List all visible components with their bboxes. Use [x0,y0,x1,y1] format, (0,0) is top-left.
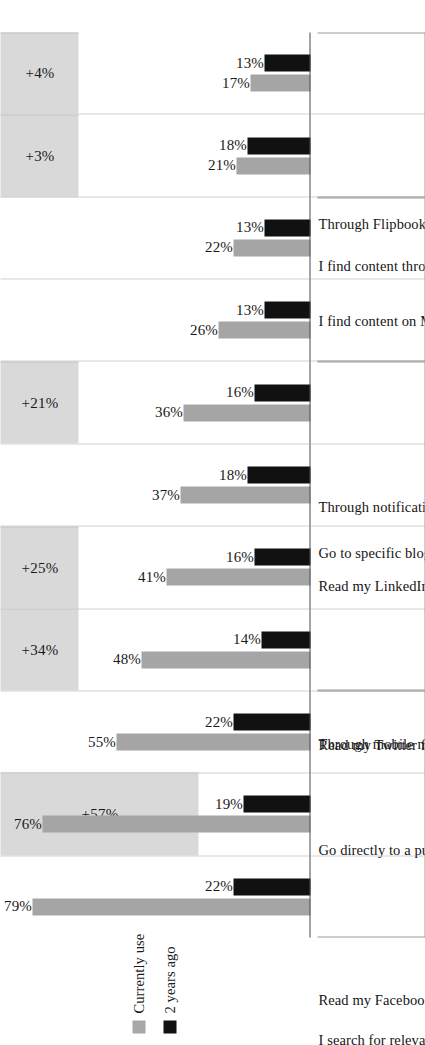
category-label-cell: I search for relevant content in search … [310,856,425,937]
legend-swatch-2-years-ago [163,1020,176,1033]
bar-value-label: 21% [207,157,235,174]
bar-group: 79%22% [0,856,310,937]
bar-value-label: 36% [155,404,183,421]
bar-group: 36%16% [0,361,310,443]
legend-item-currently-use: Currently use [130,933,147,1033]
bar-currently-use: 48% [141,651,310,668]
bar-groups: 79%22%76%19%55%22%48%14%41%16%37%18%36%1… [0,32,310,937]
bar-value-label: 76% [14,815,42,832]
legend-label-currently-use: Currently use [130,933,147,1013]
bar-value-label: 22% [204,713,232,730]
category-label-cell: Through mobile notifications [310,609,425,691]
bar-value-label: 22% [204,239,232,256]
bar-value-label: 17% [222,74,250,91]
bar-value-label: 13% [236,54,264,71]
bar-2-years-ago: 22% [233,878,311,895]
bar-currently-use: 26% [218,321,310,338]
bar-value-label: 26% [190,321,218,338]
chart-stage: Currently use 2 years ago +57%+34%+25%+2… [0,0,425,1045]
bar-group: 21%18% [0,114,310,196]
category-label: Through notifications via Slack or other… [318,498,425,515]
category-label-cell: Read my LinkedIn feed and click interest… [310,361,425,443]
bar-2-years-ago: 13% [264,54,310,71]
bar-2-years-ago: 16% [254,548,310,565]
category-label: I find content on Medium [318,313,425,330]
bar-group: 37%18% [0,444,310,526]
category-label: I search for relevant content in search … [318,1032,425,1045]
bar-value-label: 13% [236,301,264,318]
category-label: Read my Facebook feed and click interest… [318,991,425,1008]
bar-2-years-ago: 18% [247,466,310,483]
bar-value-label: 55% [88,733,116,750]
category-label-cell: Read my Twitter feed and click interesti… [310,526,425,608]
plot-area: +57%+34%+25%+21%+3%+4% 79%22%76%19%55%22… [0,32,425,937]
bar-2-years-ago: 22% [233,713,311,730]
bar-currently-use: 21% [236,157,310,174]
bar-chart-figure: Currently use 2 years ago +57%+34%+25%+2… [0,0,425,1045]
bar-2-years-ago: 16% [254,384,310,401]
category-label-strip: I search for relevant content in search … [310,32,425,937]
category-label: Go to specific blogs [318,544,425,561]
bar-value-label: 18% [218,137,246,154]
category-label: Read my LinkedIn feed and click interest… [318,578,425,595]
bar-value-label: 37% [151,486,179,503]
bar-value-label: 16% [225,384,253,401]
chart-legend: Currently use 2 years ago [130,933,178,1033]
bar-2-years-ago: 14% [261,631,310,648]
category-label: I find content through an RSS feed [318,258,425,275]
bar-value-label: 14% [232,631,260,648]
bar-value-label: 18% [218,466,246,483]
bar-value-label: 41% [137,568,165,585]
bar-currently-use: 76% [42,815,310,832]
bar-currently-use: 36% [183,404,310,421]
bar-value-label: 22% [204,878,232,895]
bar-group: 26%13% [0,279,310,361]
legend-swatch-currently-use [132,1020,145,1033]
category-label-cell: Go directly to a publication's website [310,691,425,773]
legend-item-2-years-ago: 2 years ago [161,933,178,1033]
bar-group: 17%13% [0,32,310,114]
bar-currently-use: 79% [32,898,310,915]
bar-value-label: 48% [112,651,140,668]
bar-group: 41%16% [0,526,310,608]
bar-currently-use: 37% [180,486,310,503]
category-label-cell: Through Flipbook, Feedly or another read… [310,32,425,114]
legend-label-2-years-ago: 2 years ago [161,946,178,1013]
bar-currently-use: 17% [250,74,310,91]
category-label: Read my Twitter feed and click interesti… [318,737,425,754]
bar-currently-use: 55% [116,733,310,750]
bar-2-years-ago: 18% [247,137,310,154]
category-label: Go directly to a publication's website [318,841,425,858]
bar-value-label: 13% [236,219,264,236]
bar-group: 76%19% [0,773,310,855]
category-label: Through Flipbook, Feedly or another read… [318,215,425,232]
bar-value-label: 79% [3,898,31,915]
bar-2-years-ago: 13% [264,301,310,318]
bar-currently-use: 41% [166,568,310,585]
bar-group: 55%22% [0,691,310,773]
bar-value-label: 19% [215,795,243,812]
bar-2-years-ago: 19% [243,795,310,812]
category-label-cell: I find content through an RSS feed [310,114,425,196]
bar-group: 48%14% [0,609,310,691]
bar-group: 22%13% [0,197,310,279]
bar-currently-use: 22% [233,239,311,256]
bar-2-years-ago: 13% [264,219,310,236]
bar-value-label: 16% [225,548,253,565]
